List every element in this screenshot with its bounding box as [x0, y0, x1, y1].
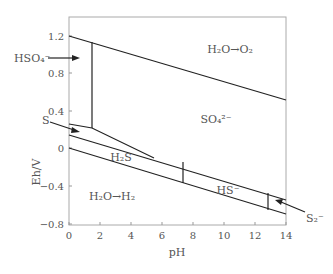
arrowhead-icon [71, 127, 80, 133]
x-tick-label: 6 [159, 230, 165, 241]
h2-boundary [69, 148, 286, 214]
x-tick-label: 12 [249, 230, 262, 241]
x-tick-label: 2 [97, 230, 103, 241]
arrow-s [50, 122, 74, 130]
y-tick-label: −0.4 [40, 181, 64, 192]
y-tick-label: 1.2 [48, 31, 64, 42]
arrow-s2 [281, 202, 305, 212]
x-tick-label: 4 [128, 230, 134, 241]
y-tick-label: 0.8 [48, 68, 64, 79]
y-axis-label: Eh/V [30, 158, 43, 186]
y-tick-label: −0.8 [40, 219, 64, 230]
y-tick-label: 0 [58, 143, 64, 154]
arrowhead-icon [72, 55, 80, 61]
region-label-so4: SO₄²⁻ [200, 113, 231, 126]
x-axis-label: pH [169, 246, 186, 259]
region-label-o2: H₂O→O₂ [207, 43, 253, 56]
o2-boundary [69, 36, 286, 100]
x-tick-label: 10 [218, 230, 231, 241]
y-tick-label: 0.4 [48, 106, 64, 117]
arrowhead-icon [275, 199, 283, 205]
region-label-hs: HS⁻ [217, 184, 240, 197]
pourbaix-diagram: 0 2 4 6 8 10 12 14 1.2 0.8 0.4 0 −0.4 −0… [0, 0, 333, 274]
callout-hso4: HSO₄⁻ [14, 52, 51, 65]
region-label-h2s: H₂S [110, 151, 132, 164]
callout-s: S [42, 114, 50, 127]
callout-s2: S₂⁻ [306, 212, 324, 225]
boundary-lines [69, 36, 286, 214]
region-label-h2: H₂O→H₂ [89, 190, 135, 203]
x-tick-label: 8 [190, 230, 196, 241]
x-tick-label: 14 [280, 230, 293, 241]
x-tick-label: 0 [66, 230, 72, 241]
